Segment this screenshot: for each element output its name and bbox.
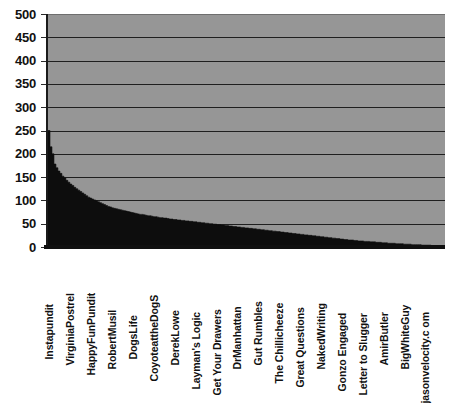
y-tick-label: 250 bbox=[15, 124, 36, 137]
x-tick-label: Get Your Drawers bbox=[211, 309, 222, 395]
x-tick-label: Instapundit bbox=[44, 304, 55, 359]
x-tick-label: Layman's Logic bbox=[190, 311, 201, 389]
x-tick-label: The Chillicheeze bbox=[274, 302, 285, 383]
y-tick-label: 450 bbox=[15, 31, 36, 44]
x-tick-label: DerekLowe bbox=[169, 310, 180, 365]
x-tick-label: CoyoteattheDogS bbox=[148, 294, 159, 381]
plot-area bbox=[46, 14, 445, 247]
y-tick-label: 150 bbox=[15, 171, 36, 184]
x-tick-label: BigWhiteGuy bbox=[399, 304, 410, 369]
x-tick-label: NakedWriting bbox=[315, 303, 326, 369]
x-tick-label: DogsLife bbox=[127, 315, 138, 359]
x-tick-label: RobertMusil bbox=[107, 309, 118, 369]
series-area-inbound-links bbox=[48, 14, 445, 247]
y-tick-label: 200 bbox=[15, 147, 36, 160]
x-tick-label: DrManhattan bbox=[232, 306, 243, 369]
x-axis: InstapunditVirginiaPostrelHappyFunPundit… bbox=[46, 250, 446, 367]
x-tick-label: AmirButler bbox=[378, 312, 389, 365]
x-tick-label: Great Questions bbox=[295, 307, 306, 387]
y-tick-label: 0 bbox=[29, 241, 36, 254]
y-tick-label: 300 bbox=[15, 101, 36, 114]
x-tick-label: Letter to Slugger bbox=[357, 313, 368, 395]
x-tick-label: VirginiaPostrel bbox=[65, 293, 76, 365]
y-tick-label: 50 bbox=[22, 217, 36, 230]
y-tick-label: 500 bbox=[15, 8, 36, 21]
x-axis-line bbox=[44, 245, 445, 249]
y-tick-label: 100 bbox=[15, 194, 36, 207]
y-tick-label: 350 bbox=[15, 77, 36, 90]
y-axis: 050100150200250300350400450500 bbox=[0, 0, 42, 260]
y-tick-label: 400 bbox=[15, 54, 36, 67]
x-tick-label: HappyFunPundit bbox=[86, 292, 97, 375]
x-tick-label: Gonzo Engaged bbox=[336, 312, 347, 391]
x-tick-label: Gut Rumbles bbox=[253, 301, 264, 365]
series-path bbox=[48, 131, 445, 248]
x-tick-label: jasonvelocity.c om bbox=[420, 312, 431, 403]
